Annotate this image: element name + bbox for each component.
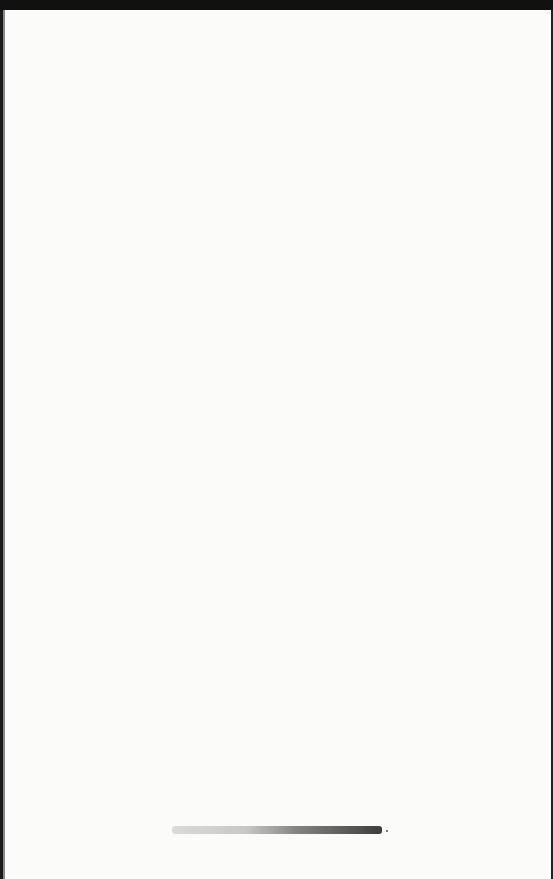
- document-page: [3, 10, 551, 879]
- footer-text: [illegible printed line]: [172, 826, 382, 834]
- footer-mark: [386, 830, 388, 832]
